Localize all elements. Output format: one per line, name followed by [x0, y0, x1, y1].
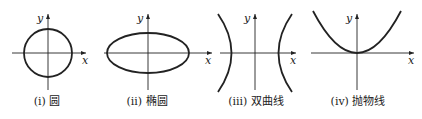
caption-ellipse: (ii) 椭圆 [126, 92, 167, 108]
panel-circle: x y [12, 12, 89, 90]
y-axis-label: y [345, 12, 353, 25]
panel-hyperbola: x y [218, 12, 297, 92]
caption-circle: (i) 圆 [34, 92, 61, 108]
y-axis-label: y [136, 12, 144, 25]
caption-parabola: (iv) 抛物线 [331, 92, 386, 108]
y-axis-label: y [36, 12, 44, 25]
x-axis-label: x [290, 54, 297, 67]
x-axis-label: x [82, 54, 89, 67]
x-axis-label: x [408, 54, 415, 67]
x-axis-label: x [205, 54, 212, 67]
caption-hyperbola: (iii) 双曲线 [228, 92, 284, 108]
y-axis-label: y [243, 12, 251, 25]
panel-ellipse: x y [104, 12, 212, 90]
panel-parabola: x y [311, 11, 415, 90]
